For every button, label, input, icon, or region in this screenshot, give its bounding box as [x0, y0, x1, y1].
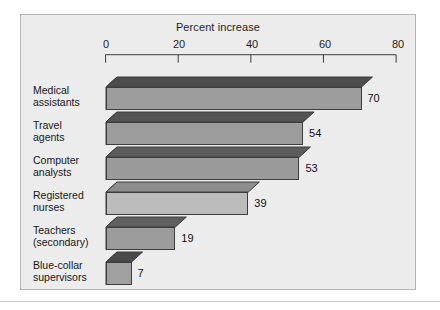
bar-front-face-0 — [106, 87, 362, 110]
bottom-separator-rule — [0, 301, 440, 302]
bar-value-label-1: 54 — [309, 127, 321, 139]
bar-front-face-5 — [106, 262, 132, 285]
bar-value-label-4: 19 — [181, 232, 193, 244]
category-label-0: Medical assistants — [33, 85, 111, 108]
bar-4[interactable] — [106, 217, 188, 252]
category-label-4: Teachers (secondary) — [33, 225, 111, 248]
bar-value-label-5: 7 — [138, 267, 144, 279]
bar-value-label-3: 39 — [254, 197, 266, 209]
category-label-5: Blue-collar supervisors — [33, 260, 111, 283]
bar-value-label-0: 70 — [368, 92, 380, 104]
bar-0[interactable] — [106, 77, 375, 112]
bar-front-face-1 — [106, 122, 303, 145]
chart-figure-frame: Percent increase 020406080 Medical assis… — [20, 14, 416, 290]
category-label-3: Registered nurses — [33, 190, 111, 213]
category-label-1: Travel agents — [33, 120, 111, 143]
bar-front-face-3 — [106, 192, 248, 215]
bar-value-label-2: 53 — [305, 162, 317, 174]
bar-front-face-4 — [106, 227, 175, 250]
plot-area: Percent increase 020406080 Medical assis… — [21, 15, 415, 289]
bar-1[interactable] — [106, 112, 316, 147]
category-label-2: Computer analysts — [33, 155, 111, 178]
bar-2[interactable] — [106, 147, 312, 182]
bar-3[interactable] — [106, 182, 261, 217]
bar-front-face-2 — [106, 157, 299, 180]
